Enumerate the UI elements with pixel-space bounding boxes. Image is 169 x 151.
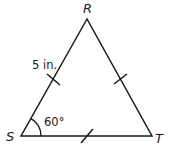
triangle-rst (21, 19, 152, 136)
tick-mark-sr (47, 74, 60, 85)
vertex-label-r: R (83, 1, 92, 16)
angle-label-s: 60° (44, 115, 64, 129)
side-length-label: 5 in. (32, 58, 57, 72)
angle-arc-s (31, 119, 41, 136)
tick-mark-rt (114, 74, 127, 84)
vertex-label-s: S (6, 129, 14, 144)
triangle-diagram: R S T 5 in. 60° (0, 0, 169, 151)
vertex-label-t: T (155, 131, 164, 146)
